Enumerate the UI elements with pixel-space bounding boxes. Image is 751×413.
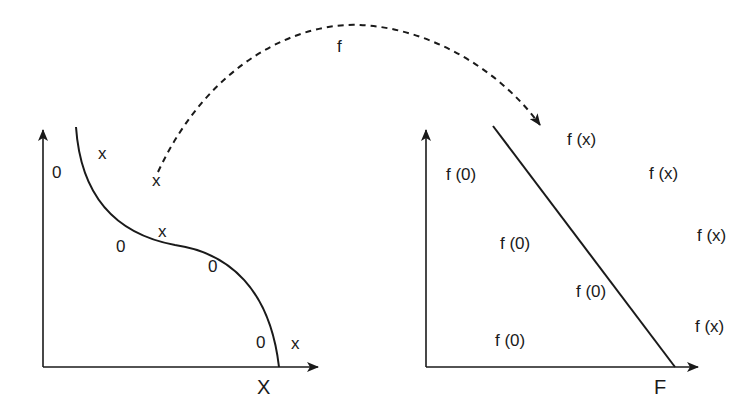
feature-point-label: f (0) <box>495 332 525 349</box>
input-point-label: x <box>291 335 300 352</box>
feature-point-label: f (x) <box>695 318 724 335</box>
feature-point-label: f (0) <box>500 235 530 252</box>
nonlinear-decision-boundary <box>76 127 279 367</box>
feature-space-panel <box>426 126 698 367</box>
input-space-panel <box>43 127 318 367</box>
feature-point-label: f (x) <box>649 165 678 182</box>
mapping-label: f <box>337 38 342 55</box>
feature-point-label: f (0) <box>576 283 606 300</box>
input-point-label: 0 <box>208 258 217 275</box>
input-point-label: x <box>158 223 167 240</box>
input-point-label: 0 <box>52 164 61 181</box>
mapping-arrow <box>158 25 540 172</box>
feature-point-label: f (0) <box>446 166 476 183</box>
kernel-mapping-diagram <box>0 0 751 413</box>
feature-axis-label: F <box>654 377 666 397</box>
input-point-label: 0 <box>116 238 125 255</box>
feature-point-label: f (x) <box>567 131 596 148</box>
input-point-label: 0 <box>256 334 265 351</box>
input-point-label: x <box>98 145 107 162</box>
input-axis-label: X <box>257 377 270 397</box>
feature-point-label: f (x) <box>697 227 726 244</box>
input-point-label: x <box>152 172 161 189</box>
